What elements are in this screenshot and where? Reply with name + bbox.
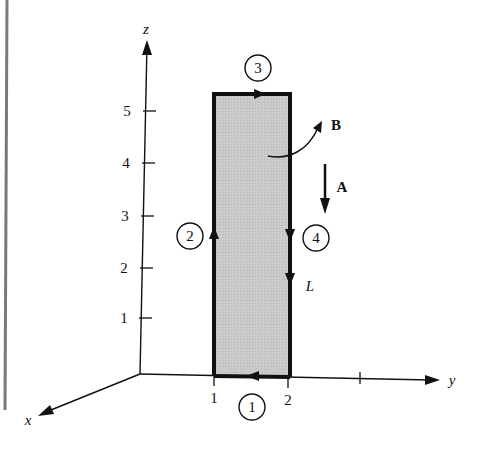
current-loop xyxy=(209,89,295,381)
b-arrow-icon xyxy=(313,121,322,133)
z-tick-label-1: 1 xyxy=(120,310,128,326)
margin-rule xyxy=(5,0,7,410)
segment-label-2: 2 xyxy=(177,223,203,249)
y-arrow-icon xyxy=(425,375,440,385)
x-axis-label: x xyxy=(24,412,32,428)
loop-surface xyxy=(214,94,290,376)
x-arrow-icon xyxy=(38,405,54,416)
vector-B-label: B xyxy=(331,117,341,133)
vector-A: A xyxy=(320,164,348,214)
z-tick-label-2: 2 xyxy=(120,260,128,276)
a-arrow-icon xyxy=(320,198,330,214)
z-axis-label: z xyxy=(142,21,149,37)
x-axis: x xyxy=(24,374,140,428)
segment-label-1: 1 xyxy=(239,394,265,420)
y-tick-label-1: 1 xyxy=(210,390,218,406)
svg-text:2: 2 xyxy=(186,228,194,244)
y-tick-label-2: 2 xyxy=(284,392,292,408)
z-axis: z 1 2 3 4 5 xyxy=(120,21,156,374)
vector-A-label: A xyxy=(337,179,348,195)
loop-diagram: z 1 2 3 4 5 y 1 2 x xyxy=(0,0,496,453)
svg-text:1: 1 xyxy=(248,399,256,415)
svg-text:3: 3 xyxy=(254,60,262,76)
z-tick-label-3: 3 xyxy=(121,208,129,224)
y-axis-label: y xyxy=(447,372,456,388)
svg-text:4: 4 xyxy=(312,230,320,246)
segment-label-3: 3 xyxy=(245,55,271,81)
z-arrow-icon xyxy=(142,40,152,55)
y-axis: y 1 2 xyxy=(140,372,456,408)
path-label-L: L xyxy=(305,278,314,294)
z-tick-label-4: 4 xyxy=(122,155,130,171)
segment-label-4: 4 xyxy=(303,225,329,251)
z-tick-label-5: 5 xyxy=(123,103,131,119)
